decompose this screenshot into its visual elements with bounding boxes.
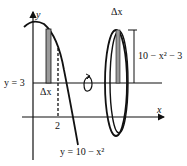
y-axis-label: y (35, 9, 41, 20)
radius-label: 10 − x² − 3 (138, 50, 182, 61)
strip-rectangle (46, 29, 51, 83)
x-axis-label: x (156, 104, 162, 115)
curve-equation-label: y = 10 − x² (60, 146, 104, 157)
strip-width-label-left: Δx (40, 86, 51, 97)
washer-diagram: y y = 3 x Δx 2 y = 10 − x² Δx 10 − x² − … (0, 0, 187, 166)
strip-width-label-right: Δx (111, 6, 122, 17)
x-tick-2-label: 2 (55, 120, 60, 131)
y-equals-3-label: y = 3 (4, 77, 25, 88)
washer-strip (116, 30, 120, 83)
